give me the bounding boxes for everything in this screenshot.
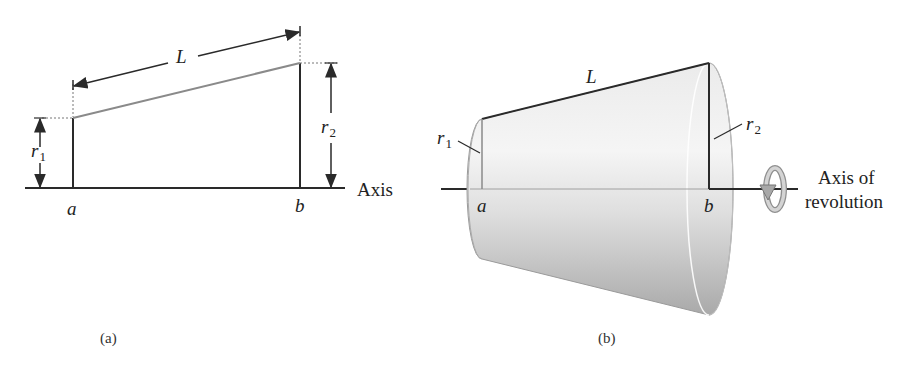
label-a-b: a [477,196,487,215]
caption-b: (b) [598,330,616,347]
label-r1-b: r1 [437,128,452,147]
label-b-b: b [704,196,714,215]
label-axis-of-revolution-line2: revolution [805,192,883,211]
label-b-a: b [295,196,305,215]
L-arrow-left [74,63,168,86]
label-L-a: L [176,47,187,66]
label-axis-of-revolution-line1: Axis of [818,168,874,187]
slant-edge [73,63,300,118]
diagram-canvas [0,0,912,368]
label-a-a: a [67,199,77,218]
label-r1-a: r1 [31,141,46,160]
caption-a: (a) [100,330,117,347]
label-axis-a: Axis [357,180,393,199]
label-r2-b: r2 [746,114,761,133]
figure-b [441,63,798,315]
label-L-b: L [586,67,597,86]
label-r2-a: r2 [321,117,336,136]
L-arrow-right [198,32,299,56]
